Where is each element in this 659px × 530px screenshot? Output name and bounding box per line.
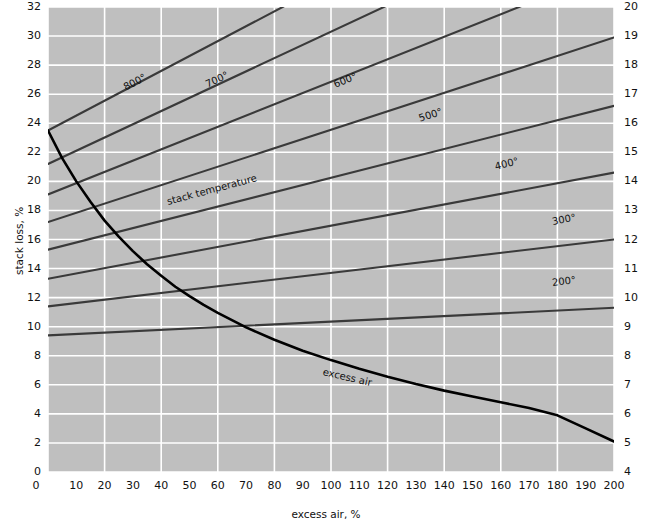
x-axis-tick: 0 <box>16 479 56 492</box>
y-axis-left-tick: 20 <box>0 174 41 187</box>
y-axis-right-tick: 5 <box>624 436 631 449</box>
y-axis-left-tick: 4 <box>0 407 41 420</box>
y-axis-left-tick: 30 <box>0 29 41 42</box>
y-axis-left-tick: 2 <box>0 436 41 449</box>
y-axis-left-tick: 8 <box>0 349 41 362</box>
y-axis-left-tick: 12 <box>0 291 41 304</box>
y-axis-right-tick: 4 <box>624 465 631 478</box>
y-axis-right-tick: 10 <box>624 291 638 304</box>
y-axis-right-tick: 17 <box>624 87 638 100</box>
y-axis-left-tick: 32 <box>0 0 41 13</box>
y-axis-left-tick: 6 <box>0 378 41 391</box>
y-axis-right-tick: 15 <box>624 145 638 158</box>
y-axis-right-tick: 9 <box>624 320 631 333</box>
y-axis-left-tick: 22 <box>0 145 41 158</box>
y-axis-left-tick: 28 <box>0 58 41 71</box>
y-axis-left-tick: 24 <box>0 116 41 129</box>
y-axis-right-tick: 18 <box>624 58 638 71</box>
x-axis-title: excess air, % <box>276 508 376 520</box>
y-axis-right-tick: 16 <box>624 116 638 129</box>
y-axis-right-tick: 20 <box>624 0 638 13</box>
y-axis-right-tick: 12 <box>624 233 638 246</box>
x-axis-tick: 200 <box>594 479 634 492</box>
y-axis-left-tick: 10 <box>0 320 41 333</box>
y-axis-left-tick: 26 <box>0 87 41 100</box>
y-axis-right-tick: 13 <box>624 203 638 216</box>
stack-loss-chart: 32302826242220181614121086420 2019181716… <box>0 0 659 530</box>
y-axis-right-tick: 19 <box>624 29 638 42</box>
y-axis-right-tick: 7 <box>624 378 631 391</box>
y-axis-right-tick: 14 <box>624 174 638 187</box>
y-axis-left-tick: 0 <box>0 465 41 478</box>
y-axis-right-tick: 6 <box>624 407 631 420</box>
y-axis-left-title: stack loss, % <box>13 207 25 275</box>
y-axis-right-tick: 8 <box>624 349 631 362</box>
chart-canvas <box>0 0 659 530</box>
y-axis-right-tick: 11 <box>624 262 638 275</box>
